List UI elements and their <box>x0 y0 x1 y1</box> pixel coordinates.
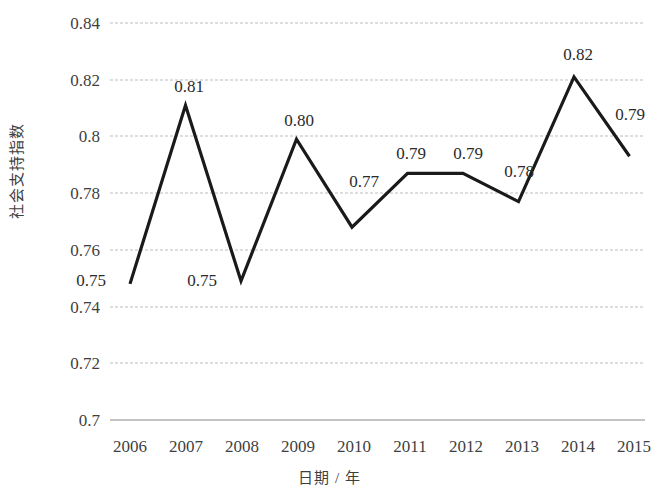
data-point-label: 0.81 <box>160 78 218 95</box>
x-tick-label: 2006 <box>100 438 160 455</box>
x-tick-label: 2007 <box>156 438 216 455</box>
x-tick-label: 2010 <box>324 438 384 455</box>
x-tick-label: 2013 <box>492 438 552 455</box>
x-tick-label: 2012 <box>436 438 496 455</box>
data-point-label: 0.77 <box>335 173 393 190</box>
x-axis-title: 日期 / 年 <box>0 466 659 487</box>
line-chart: 社会支持指数 0.84 0.82 0.8 0.78 0.76 0.74 0.72… <box>0 0 659 490</box>
data-point-label: 0.79 <box>439 145 497 162</box>
x-tick-label: 2009 <box>268 438 328 455</box>
data-point-label: 0.79 <box>382 145 440 162</box>
x-tick-label: 2014 <box>548 438 608 455</box>
plot-area <box>0 0 659 490</box>
x-tick-label: 2011 <box>380 438 440 455</box>
data-point-label: 0.75 <box>173 272 231 289</box>
gridlines <box>110 23 645 363</box>
data-point-label: 0.82 <box>549 46 607 63</box>
x-tick-label: 2008 <box>212 438 272 455</box>
data-point-label: 0.75 <box>62 272 120 289</box>
data-point-label: 0.79 <box>601 106 659 123</box>
data-point-label: 0.80 <box>270 112 328 129</box>
x-tick-label: 2015 <box>604 438 659 455</box>
data-point-label: 0.78 <box>490 163 548 180</box>
